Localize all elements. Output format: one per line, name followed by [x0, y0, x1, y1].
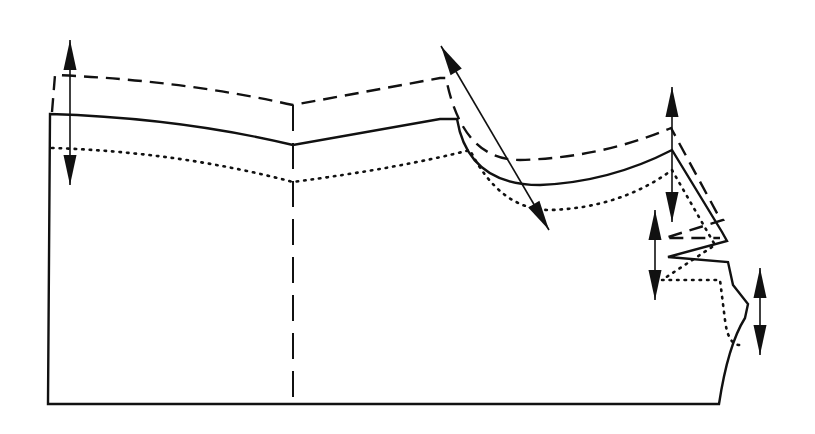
arrowhead-icon: [649, 270, 662, 300]
grading-arrow-left-vertical: [64, 40, 77, 185]
grading-arrow-hem-vertical: [754, 268, 767, 355]
small-size-outline: [52, 148, 740, 345]
arrowhead-icon: [528, 201, 549, 230]
base-size-outline: [48, 114, 748, 404]
grading-arrow-shoulder-diagonal: [441, 46, 549, 230]
pattern-diagram: [0, 0, 815, 434]
arrowhead-icon: [666, 192, 679, 222]
arrowhead-icon: [441, 46, 462, 75]
arrowhead-icon: [64, 40, 77, 70]
grading-arrow-underarm-vertical: [666, 87, 679, 222]
grading-arrow-side-vertical: [649, 210, 662, 300]
arrowhead-icon: [754, 268, 767, 298]
large-size-outline: [52, 75, 723, 238]
grading-arrows: [64, 40, 767, 355]
arrowhead-icon: [64, 155, 77, 185]
arrow-shaft: [441, 46, 549, 230]
arrowhead-icon: [666, 87, 679, 117]
arrowhead-icon: [754, 325, 767, 355]
arrowhead-icon: [649, 210, 662, 240]
